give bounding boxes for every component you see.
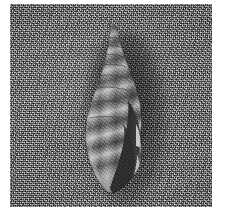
photo-grain-top <box>10 4 212 207</box>
photo-plate <box>10 4 212 207</box>
page-root: Sea shell on sand spiral gastropod sea s… <box>0 0 225 222</box>
